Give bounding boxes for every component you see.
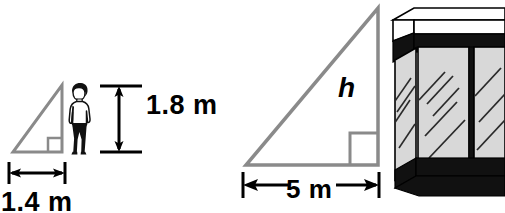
person-silhouette: [62, 82, 96, 156]
person-left-foot: [71, 152, 77, 155]
horizontal-double-arrow-icon: [6, 160, 72, 186]
small-triangle-graphic: [0, 80, 70, 158]
large-triangle-right-angle-icon: [350, 133, 378, 165]
building-ground-slab: [395, 176, 505, 196]
large-triangle-graphic: [238, 0, 386, 172]
building-roof-fascia-front: [414, 20, 505, 34]
glass-building-svg: [383, 0, 505, 213]
base-dimension-small: [6, 160, 72, 186]
height-label-small: 1.8 m: [146, 92, 218, 119]
building-glass-panel-middle: [418, 47, 469, 170]
building-base-front: [416, 158, 505, 176]
small-triangle-right-angle-icon: [48, 138, 62, 152]
person-silhouette-svg: [62, 82, 96, 156]
small-triangle-outline: [13, 85, 62, 152]
person-belt: [72, 123, 86, 126]
height-dimension-small: [98, 80, 146, 158]
building-roof-top: [393, 8, 505, 20]
large-triangle-outline: [246, 8, 378, 165]
large-triangle-svg: [238, 0, 386, 172]
person-face-icon: [73, 88, 85, 101]
base-label-small: 1.4 m: [1, 189, 73, 213]
person-pants: [72, 126, 86, 153]
building-glass-panel-right: [474, 47, 505, 170]
height-label-large: h: [338, 74, 355, 102]
small-triangle-svg: [0, 80, 70, 158]
person-right-foot: [81, 152, 87, 155]
vertical-double-arrow-icon: [98, 80, 146, 158]
base-label-large: 5 m: [286, 176, 332, 202]
geometry-figure: 1.8 m 1.4 m h: [0, 0, 505, 213]
glass-building-illustration: [383, 0, 505, 213]
